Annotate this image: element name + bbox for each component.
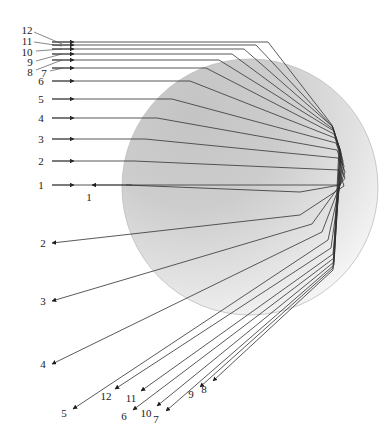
exit-label-3: 3 <box>40 296 46 307</box>
entry-label-2: 2 <box>38 156 44 167</box>
exit-label-1: 1 <box>86 192 92 203</box>
entry-label-9: 9 <box>27 57 33 68</box>
entry-label-3: 3 <box>38 134 44 145</box>
leader-line-12 <box>34 32 62 44</box>
exit-label-7: 7 <box>153 414 159 425</box>
entry-label-10: 10 <box>22 47 33 58</box>
leader-line-11 <box>34 42 62 46</box>
entry-label-4: 4 <box>38 113 44 124</box>
exit-label-6: 6 <box>121 411 127 422</box>
entry-label-12: 12 <box>22 25 33 36</box>
leader-line-7 <box>50 68 63 71</box>
entry-label-7: 7 <box>41 68 47 79</box>
exit-label-10: 10 <box>141 408 152 419</box>
exit-label-11: 11 <box>126 393 137 404</box>
exit-label-2: 2 <box>40 238 46 249</box>
exit-label-8: 8 <box>201 384 207 395</box>
figure-canvas: 1 2 3 4 5 6 7 8 9 10 11 12 1 2 3 4 5 6 7… <box>0 0 392 444</box>
entry-label-8: 8 <box>27 67 33 78</box>
exit-label-12: 12 <box>101 391 112 402</box>
exit-label-5: 5 <box>61 408 67 419</box>
entry-label-11: 11 <box>22 36 33 47</box>
leader-line-group <box>34 32 63 71</box>
exit-label-9: 9 <box>188 389 194 400</box>
leader-line-8 <box>36 60 62 70</box>
entry-label-5: 5 <box>38 94 44 105</box>
exit-label-4: 4 <box>40 359 46 370</box>
ray-diagram-svg <box>0 0 392 444</box>
entry-label-1: 1 <box>38 180 44 191</box>
leader-line-10 <box>36 49 62 51</box>
